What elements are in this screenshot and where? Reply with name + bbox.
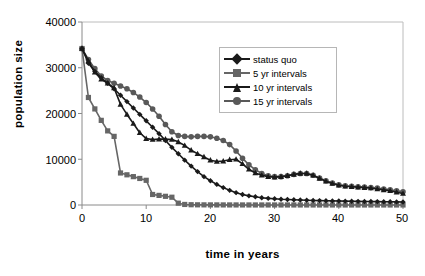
legend-label: 5 yr intervals bbox=[250, 68, 307, 79]
x-axis-ticks: 0 10 20 30 40 50 bbox=[0, 212, 425, 232]
x-tick-label: 50 bbox=[382, 212, 422, 224]
chart-title bbox=[70, 0, 310, 6]
x-tick-label: 20 bbox=[190, 212, 230, 224]
y-tick-label: 0 bbox=[30, 199, 76, 211]
legend-key-diamond-icon bbox=[224, 53, 250, 65]
legend-item-status-quo[interactable]: status quo bbox=[224, 52, 331, 66]
chart-legend: status quo 5 yr intervals 10 yr interval… bbox=[219, 47, 337, 113]
legend-item-15-yr-intervals[interactable]: 15 yr intervals bbox=[224, 94, 331, 108]
legend-key-circle-icon bbox=[224, 95, 250, 107]
legend-item-5-yr-intervals[interactable]: 5 yr intervals bbox=[224, 66, 331, 80]
y-axis-ticks: 40000 30000 20000 10000 0 bbox=[24, 0, 76, 276]
x-tick-label: 0 bbox=[62, 212, 102, 224]
population-decline-chart: population size 40000 30000 20000 10000 … bbox=[0, 0, 425, 276]
y-tick-label: 40000 bbox=[30, 16, 76, 28]
legend-item-10-yr-intervals[interactable]: 10 yr intervals bbox=[224, 80, 331, 94]
x-axis-title: time in years bbox=[82, 248, 403, 260]
x-tick-label: 40 bbox=[318, 212, 358, 224]
legend-key-triangle-icon bbox=[224, 81, 250, 93]
y-tick-label: 10000 bbox=[30, 154, 76, 166]
x-tick-label: 30 bbox=[254, 212, 294, 224]
y-tick-label: 30000 bbox=[30, 62, 76, 74]
legend-key-square-icon bbox=[224, 67, 250, 79]
legend-label: 10 yr intervals bbox=[250, 82, 312, 93]
x-tick-label: 10 bbox=[126, 212, 166, 224]
y-axis-title: population size bbox=[12, 24, 24, 144]
legend-label: status quo bbox=[250, 54, 297, 65]
legend-label: 15 yr intervals bbox=[250, 96, 312, 107]
y-tick-label: 20000 bbox=[30, 108, 76, 120]
